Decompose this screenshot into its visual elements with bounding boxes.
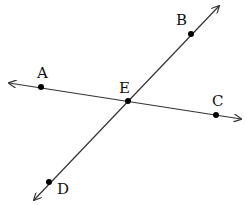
point-C — [213, 112, 219, 118]
label-B: B — [176, 11, 187, 29]
point-E — [125, 98, 131, 104]
label-C: C — [212, 92, 223, 110]
point-B — [188, 31, 194, 37]
label-D: D — [57, 180, 69, 198]
intersecting-lines-diagram: ABCDE — [0, 0, 247, 205]
point-A — [38, 84, 44, 90]
point-D — [46, 179, 52, 185]
label-E: E — [119, 79, 130, 97]
label-A: A — [36, 64, 48, 82]
